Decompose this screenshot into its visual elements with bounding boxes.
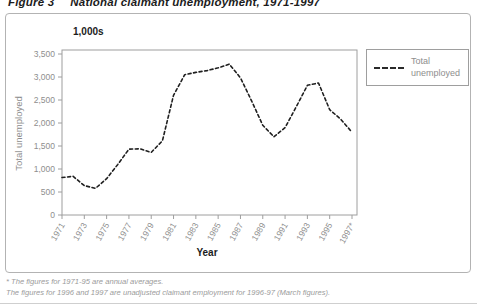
x-axis-tick-label: 1977 bbox=[116, 221, 134, 243]
footnote-1: * The figures for 1971-95 are annual ave… bbox=[6, 276, 330, 287]
y-axis-tick-label: 500 bbox=[41, 187, 55, 197]
y-axis-tick-label: 0 bbox=[50, 210, 55, 220]
legend: Total unemployed bbox=[366, 49, 469, 86]
x-axis-label: Year bbox=[172, 247, 242, 258]
units-label: 1,000s bbox=[73, 26, 104, 37]
y-axis-tick-label: 1,500 bbox=[34, 141, 56, 151]
x-axis-tick-label: 1993 bbox=[294, 221, 312, 243]
x-axis-tick-label: 1997* bbox=[337, 220, 357, 245]
x-axis-tick-label: 1981 bbox=[160, 221, 178, 243]
x-axis-tick-label: 1995 bbox=[316, 221, 334, 243]
y-axis-label: Total unemployed bbox=[13, 84, 24, 184]
y-axis-tick-label: 3,500 bbox=[34, 49, 56, 59]
x-axis-tick-label: 1971 bbox=[49, 221, 67, 243]
y-axis-tick-label: 2,500 bbox=[34, 95, 56, 105]
bottom-rule bbox=[0, 303, 477, 304]
y-axis-tick-label: 3,000 bbox=[34, 72, 56, 82]
total-unemployed-line bbox=[62, 64, 352, 188]
y-axis-tick-label: 1,000 bbox=[34, 164, 56, 174]
x-axis-tick-label: 1973 bbox=[71, 221, 89, 243]
x-axis-tick-label: 1987 bbox=[227, 221, 245, 243]
x-axis-tick-label: 1985 bbox=[205, 221, 223, 243]
plot-border bbox=[62, 50, 357, 215]
x-axis-tick-label: 1989 bbox=[249, 221, 267, 243]
x-axis-tick-label: 1983 bbox=[182, 221, 200, 243]
unemployment-line-chart: 05001,0001,5002,0002,5003,0003,500197119… bbox=[0, 0, 477, 308]
legend-label: Total unemployed bbox=[411, 56, 468, 79]
legend-dashed-line-swatch bbox=[374, 67, 404, 69]
footnotes: * The figures for 1971-95 are annual ave… bbox=[6, 276, 330, 299]
footnote-2: The figures for 1996 and 1997 are unadju… bbox=[6, 287, 330, 298]
y-axis-tick-label: 2,000 bbox=[34, 118, 56, 128]
x-axis-tick-label: 1979 bbox=[138, 221, 156, 243]
x-axis-tick-label: 1991 bbox=[272, 221, 290, 243]
x-axis-tick-label: 1975 bbox=[93, 221, 111, 243]
